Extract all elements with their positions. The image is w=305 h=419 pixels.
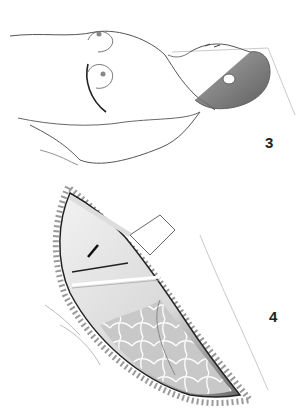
figure-3-illustration: 3 bbox=[0, 0, 305, 200]
figure-label-3: 3 bbox=[265, 134, 273, 151]
supine-patient-drawing bbox=[0, 0, 305, 200]
figure-4-illustration: 4 bbox=[0, 175, 305, 419]
surgical-wound-drawing bbox=[0, 175, 305, 419]
figure-label-4: 4 bbox=[269, 308, 277, 325]
ear bbox=[223, 74, 235, 84]
